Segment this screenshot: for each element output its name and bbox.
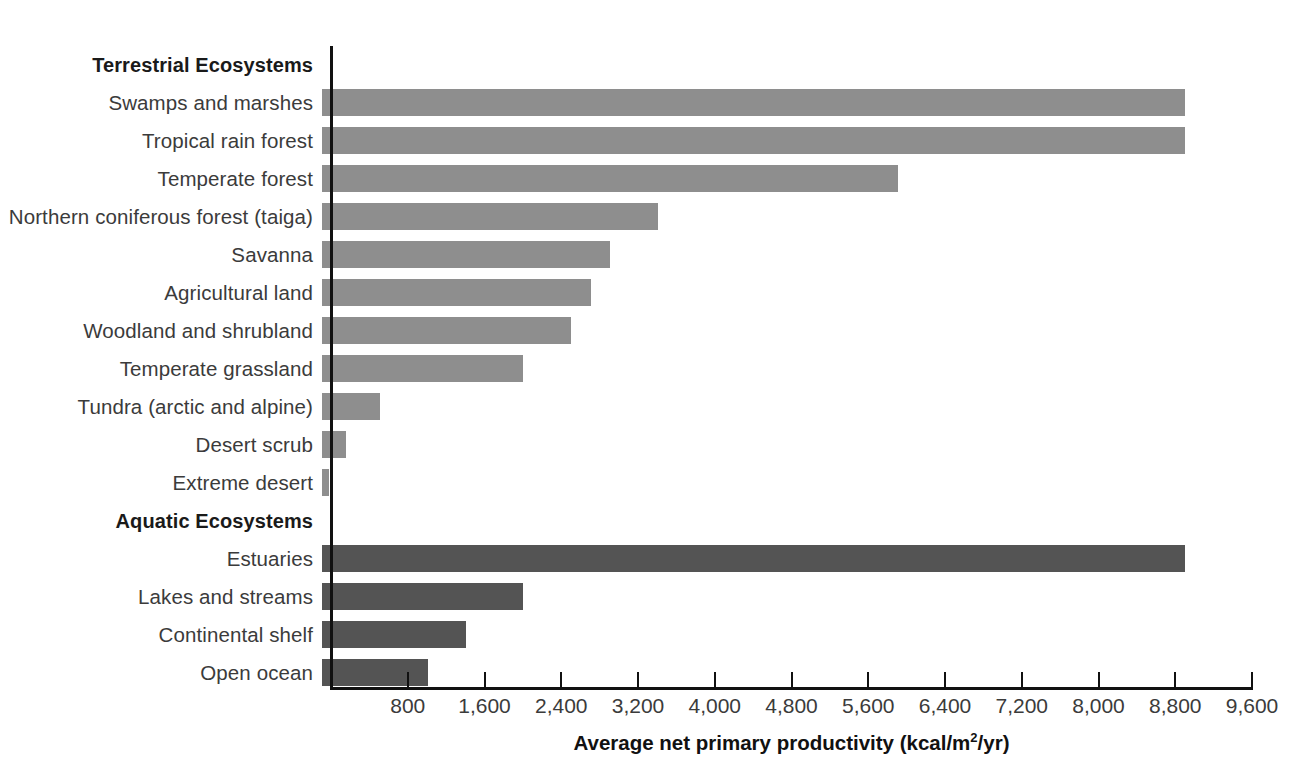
chart-row: Temperate grassland [0, 350, 1296, 388]
chart-row: Estuaries [0, 540, 1296, 578]
chart-row: Desert scrub [0, 426, 1296, 464]
x-tick-label: 6,400 [919, 694, 972, 718]
x-tick-mark [791, 672, 793, 687]
chart-row: Lakes and streams [0, 578, 1296, 616]
bar-track [322, 84, 1296, 122]
bar-track [322, 160, 1296, 198]
group-heading-label: Terrestrial Ecosystems [0, 54, 322, 77]
bar [322, 431, 346, 458]
bar-track [322, 122, 1296, 160]
category-label: Temperate grassland [0, 357, 322, 381]
x-tick-label: 7,200 [995, 694, 1048, 718]
x-tick-label: 8,800 [1149, 694, 1202, 718]
bar-track [322, 426, 1296, 464]
bar-track [322, 312, 1296, 350]
x-tick-mark [1098, 672, 1100, 687]
x-tick-label: 9,600 [1226, 694, 1279, 718]
x-axis-line [330, 687, 1253, 690]
bar [322, 583, 523, 610]
category-label: Tropical rain forest [0, 129, 322, 153]
x-tick-label: 4,000 [688, 694, 741, 718]
x-tick-label: 8,000 [1072, 694, 1125, 718]
x-axis-title-post: /yr) [978, 731, 1010, 754]
chart-row: Swamps and marshes [0, 84, 1296, 122]
chart-plot-area: Terrestrial EcosystemsSwamps and marshes… [0, 0, 1296, 690]
chart-row: Extreme desert [0, 464, 1296, 502]
bar [322, 203, 658, 230]
chart-row: Northern coniferous forest (taiga) [0, 198, 1296, 236]
bar [322, 317, 571, 344]
bar-track [322, 350, 1296, 388]
category-label: Continental shelf [0, 623, 322, 647]
bar [322, 621, 466, 648]
x-tick-mark [560, 672, 562, 687]
bar [322, 545, 1185, 572]
bar-track [322, 616, 1296, 654]
chart-row: Temperate forest [0, 160, 1296, 198]
x-tick-mark [407, 672, 409, 687]
bar [322, 279, 591, 306]
bar-track [322, 198, 1296, 236]
x-tick-label: 3,200 [612, 694, 665, 718]
x-tick-mark [1251, 672, 1253, 687]
category-label: Woodland and shrubland [0, 319, 322, 343]
x-axis-title-superscript: 2 [970, 730, 977, 745]
bar [322, 89, 1185, 116]
category-label: Open ocean [0, 661, 322, 685]
bar [322, 469, 329, 496]
chart-row: Tropical rain forest [0, 122, 1296, 160]
chart-row: Tundra (arctic and alpine) [0, 388, 1296, 426]
x-axis-title-pre: Average net primary productivity (kcal/m [574, 731, 971, 754]
category-label: Lakes and streams [0, 585, 322, 609]
chart-row: Continental shelf [0, 616, 1296, 654]
category-label: Temperate forest [0, 167, 322, 191]
bar-track [322, 502, 1296, 540]
bar-track [322, 46, 1296, 84]
group-heading-row: Aquatic Ecosystems [0, 502, 1296, 540]
category-label: Estuaries [0, 547, 322, 571]
bar [322, 659, 428, 686]
chart-row: Agricultural land [0, 274, 1296, 312]
bar-track [322, 578, 1296, 616]
x-tick-mark [1174, 672, 1176, 687]
x-tick-mark [944, 672, 946, 687]
y-axis-line [330, 46, 333, 689]
category-label: Swamps and marshes [0, 91, 322, 115]
x-tick-label: 800 [390, 694, 425, 718]
bar-track [322, 388, 1296, 426]
x-tick-label: 2,400 [535, 694, 588, 718]
x-tick-label: 4,800 [765, 694, 818, 718]
bar-track [322, 236, 1296, 274]
chart-row: Savanna [0, 236, 1296, 274]
bar [322, 165, 898, 192]
group-heading-label: Aquatic Ecosystems [0, 510, 322, 533]
x-tick-mark [867, 672, 869, 687]
x-tick-mark [637, 672, 639, 687]
category-label: Northern coniferous forest (taiga) [0, 205, 322, 229]
bar [322, 355, 523, 382]
category-label: Extreme desert [0, 471, 322, 495]
bar-track [322, 540, 1296, 578]
x-axis-title: Average net primary productivity (kcal/m… [330, 731, 1253, 755]
category-label: Tundra (arctic and alpine) [0, 395, 322, 419]
x-tick-label: 1,600 [458, 694, 511, 718]
x-tick-mark [1021, 672, 1023, 687]
x-tick-label: 5,600 [842, 694, 895, 718]
x-tick-mark [484, 672, 486, 687]
bar [322, 241, 610, 268]
category-label: Agricultural land [0, 281, 322, 305]
category-label: Savanna [0, 243, 322, 267]
x-tick-mark [714, 672, 716, 687]
category-label: Desert scrub [0, 433, 322, 457]
npp-bar-chart: Terrestrial EcosystemsSwamps and marshes… [0, 0, 1296, 769]
group-heading-row: Terrestrial Ecosystems [0, 46, 1296, 84]
chart-row: Woodland and shrubland [0, 312, 1296, 350]
bar-track [322, 274, 1296, 312]
bar-track [322, 464, 1296, 502]
bar [322, 127, 1185, 154]
